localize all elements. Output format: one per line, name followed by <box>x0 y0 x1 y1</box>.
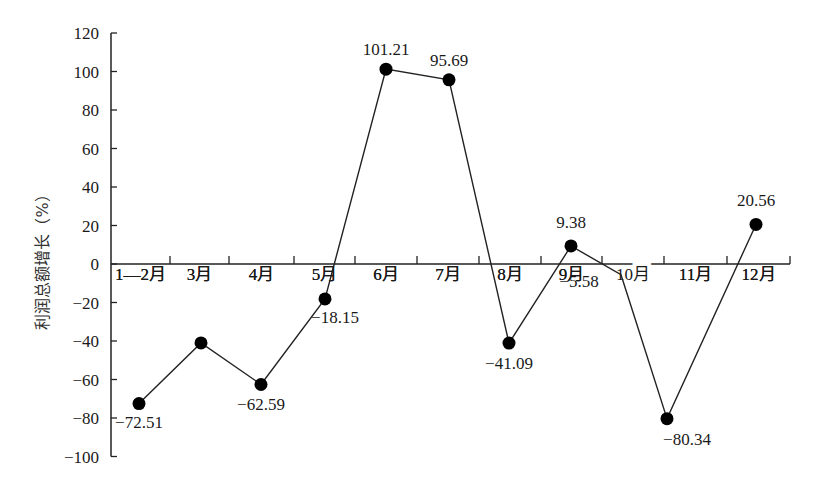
data-value-label: −5.58 <box>559 272 598 291</box>
line-chart: 120100806040200−20−40−60−80−100 1—2月1—2月… <box>0 0 824 490</box>
data-value-label: −18.15 <box>311 308 359 327</box>
data-point-marker <box>255 378 268 391</box>
svg-text:3月: 3月 <box>187 265 213 284</box>
data-value-label: −41.09 <box>485 354 533 373</box>
svg-text:8月: 8月 <box>497 265 523 284</box>
x-category-label: 8月8月 <box>497 265 523 284</box>
svg-text:6月: 6月 <box>373 265 399 284</box>
x-category-label: 12月12月 <box>742 265 776 284</box>
data-point-marker <box>443 73 456 86</box>
y-tick-label: −60 <box>72 371 99 390</box>
x-category-label: 1—2月1—2月 <box>115 265 166 284</box>
x-category-label: 3月3月 <box>187 265 213 284</box>
svg-text:7月: 7月 <box>435 265 461 284</box>
x-category-label: 7月7月 <box>435 265 461 284</box>
data-point-marker <box>565 239 578 252</box>
series-line <box>139 69 756 418</box>
y-axis-title: 利润总额增长（%） <box>33 186 52 329</box>
profit-growth-series <box>133 63 763 425</box>
y-tick-label: −40 <box>72 332 99 351</box>
data-point-marker <box>503 337 516 350</box>
y-tick-label: −100 <box>64 448 99 467</box>
x-category-label: 11月11月 <box>679 265 712 284</box>
svg-text:1—2月: 1—2月 <box>115 265 166 284</box>
y-tick-label: 0 <box>91 255 100 274</box>
data-value-label: 20.56 <box>737 191 775 210</box>
y-tick-label: 40 <box>82 178 99 197</box>
y-tick-label: 120 <box>74 24 100 43</box>
y-tick-label: 80 <box>82 101 99 120</box>
y-tick-label: −20 <box>72 294 99 313</box>
data-labels: −72.51−62.59−18.15101.2195.69−41.099.38−… <box>115 40 775 448</box>
data-point-marker <box>133 397 146 410</box>
data-value-label: −80.34 <box>663 430 711 449</box>
data-point-marker <box>380 63 393 76</box>
y-tick-label: 100 <box>74 63 100 82</box>
data-value-label: −72.51 <box>115 413 163 432</box>
data-point-marker <box>319 292 332 305</box>
svg-text:12月: 12月 <box>742 265 776 284</box>
y-axis: 120100806040200−20−40−60−80−100 <box>64 24 117 467</box>
data-value-label: −62.59 <box>237 395 285 414</box>
data-point-marker <box>661 412 674 425</box>
x-category-label: 4月4月 <box>249 265 275 284</box>
svg-text:4月: 4月 <box>249 265 275 284</box>
data-value-label: 101.21 <box>363 40 410 59</box>
data-point-marker <box>750 218 763 231</box>
svg-text:11月: 11月 <box>679 265 712 284</box>
data-point-marker <box>195 336 208 349</box>
data-value-label: 95.69 <box>430 51 468 70</box>
y-tick-label: 60 <box>82 140 99 159</box>
y-tick-label: 20 <box>82 217 99 236</box>
x-axis: 1—2月1—2月3月3月4月4月5月5月6月6月7月7月8月8月9月9月10月1… <box>111 256 790 284</box>
x-category-label: 6月6月 <box>373 265 399 284</box>
data-value-label: 9.38 <box>556 213 586 232</box>
y-tick-label: −80 <box>72 409 99 428</box>
